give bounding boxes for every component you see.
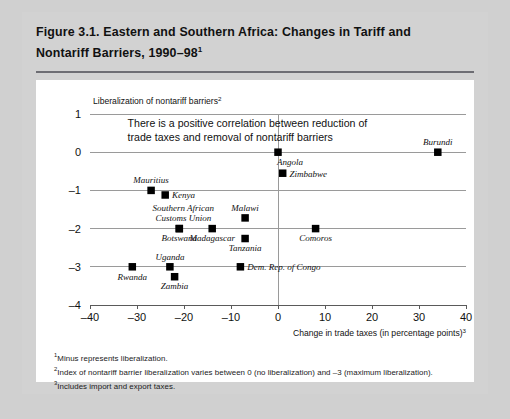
data-point[interactable]: Malawi [230, 203, 259, 222]
data-point-label: Madagascar [188, 233, 235, 243]
data-point[interactable]: Comoros [299, 225, 332, 244]
data-point-marker[interactable] [274, 148, 282, 156]
data-point-label: Customs Union [155, 213, 211, 223]
data-point-marker[interactable] [241, 235, 249, 243]
annotation-line-2: trade taxes and removal of nontariff bar… [128, 131, 333, 143]
data-point-marker[interactable] [208, 225, 216, 233]
data-point-marker[interactable] [129, 263, 137, 271]
data-point-marker[interactable] [312, 225, 320, 233]
data-point[interactable]: Zimbabwe [279, 169, 327, 179]
data-point-marker[interactable] [434, 148, 442, 156]
data-point-marker[interactable] [166, 263, 174, 271]
data-point-label: Mauritius [132, 175, 169, 185]
data-point[interactable]: Southern AfricanCustoms Union [153, 203, 215, 233]
data-point[interactable]: Zambia [161, 273, 189, 292]
footnotes: 1Minus represents liberalization.2Index … [54, 350, 484, 392]
title-divider [36, 71, 474, 73]
y-tick-label-1: 1 [75, 108, 81, 120]
x-tick-label-10: 10 [319, 311, 331, 323]
x-tick-label--40: –40 [81, 311, 99, 323]
data-point-label: Southern African [153, 203, 215, 213]
data-point-marker[interactable] [147, 187, 155, 195]
data-point-label: Rwanda [117, 272, 148, 282]
figure-title-footnote-marker: 1 [198, 45, 203, 54]
data-point-label: Kenya [171, 190, 195, 200]
figure-title-line-1: Figure 3.1. Eastern and Southern Africa:… [36, 25, 411, 39]
y-tick-label--3: –3 [69, 261, 81, 273]
y-axis-title: Liberalization of nontariff barriers2 [93, 95, 222, 107]
data-point-label: Comoros [299, 233, 332, 243]
figure-panel: Figure 3.1. Eastern and Southern Africa:… [22, 12, 488, 394]
footnote: 2Index of nontariff barrier liberalizati… [54, 364, 484, 378]
y-axis-title-footnote-marker: 2 [218, 95, 222, 102]
y-tick-label-0: 0 [75, 146, 81, 158]
data-point-marker[interactable] [241, 214, 249, 222]
footnote: 3Includes import and export taxes. [54, 378, 484, 392]
annotation-line-1: There is a positive correlation between … [128, 117, 368, 129]
data-point-marker[interactable] [237, 263, 245, 271]
data-point[interactable]: Kenya [161, 190, 195, 200]
data-point-marker[interactable] [171, 273, 179, 281]
y-tick-label--2: –2 [69, 223, 81, 235]
data-point[interactable]: Angola [274, 148, 303, 167]
data-point-label: Malawi [230, 203, 259, 213]
data-point-label: Uganda [155, 252, 184, 262]
scatter-plot: –40–30–20–1001020304010–1–2–3–4Liberaliz… [36, 80, 474, 382]
x-tick-label--20: –20 [175, 311, 193, 323]
x-axis-title-footnote-marker: 3 [463, 327, 467, 334]
data-point-label: Tanzania [229, 243, 262, 253]
x-tick-label-40: 40 [460, 311, 472, 323]
data-point-marker[interactable] [279, 169, 287, 177]
data-point-label: Dem. Rep. of Congo [246, 262, 321, 272]
x-tick-label--10: –10 [222, 311, 240, 323]
x-tick-label-0: 0 [275, 311, 281, 323]
footnote-text: Includes import and export taxes. [57, 382, 175, 391]
y-tick-label--4: –4 [69, 299, 81, 311]
plot-svg: –40–30–20–1001020304010–1–2–3–4Liberaliz… [36, 80, 474, 382]
data-point-label: Zambia [161, 281, 189, 291]
data-point[interactable]: Rwanda [117, 263, 148, 282]
data-point-label: Zimbabwe [289, 169, 327, 179]
footnote-text: Index of nontariff barrier liberalizatio… [57, 368, 433, 377]
y-tick-label--1: –1 [69, 184, 81, 196]
x-tick-label--30: –30 [128, 311, 146, 323]
data-point-marker[interactable] [161, 191, 169, 199]
data-point-marker[interactable] [176, 225, 184, 233]
x-axis-title: Change in trade taxes (in percentage poi… [293, 327, 467, 339]
data-point-label: Angola [276, 157, 303, 167]
data-point[interactable]: Uganda [155, 252, 184, 271]
x-tick-label-20: 20 [366, 311, 378, 323]
data-point-label: Burundi [423, 137, 453, 147]
figure-title-line-2: Nontariff Barriers, 1990–98 [36, 46, 198, 60]
figure-title: Figure 3.1. Eastern and Southern Africa:… [36, 24, 472, 62]
data-point[interactable]: Madagascar [188, 225, 235, 244]
x-tick-label-30: 30 [413, 311, 425, 323]
chart-card: –40–30–20–1001020304010–1–2–3–4Liberaliz… [36, 80, 474, 382]
data-point[interactable]: Dem. Rep. of Congo [237, 262, 321, 272]
data-point[interactable]: Burundi [423, 137, 453, 156]
footnote-text: Minus represents liberalization. [57, 354, 167, 363]
footnote: 1Minus represents liberalization. [54, 350, 484, 364]
